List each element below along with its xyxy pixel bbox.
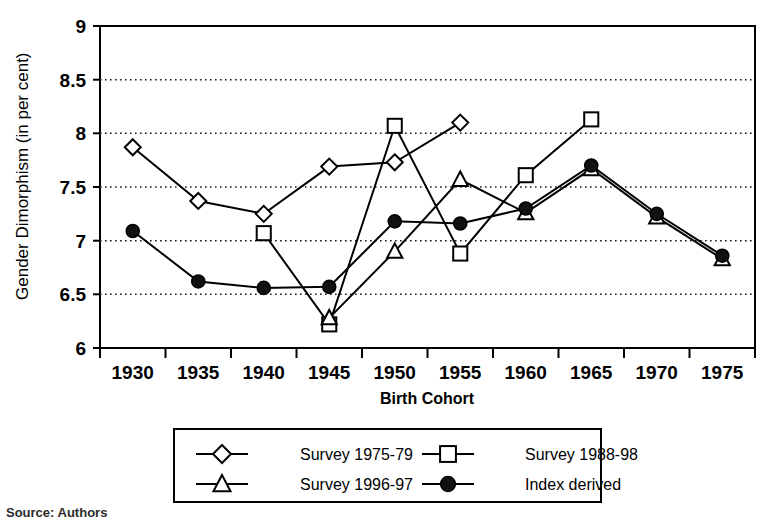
y-tick-label-7: 7	[75, 231, 86, 252]
square-open	[453, 247, 467, 261]
square-open	[440, 446, 456, 462]
marker-square-open	[584, 112, 598, 126]
x-tick-label-1975: 1975	[701, 362, 744, 383]
x-tick-label-1960: 1960	[505, 362, 547, 383]
y-tick-label-6-5: 6.5	[60, 284, 87, 305]
marker-circle-filled	[441, 477, 456, 492]
circle-filled	[585, 159, 598, 172]
x-tick-label-1930: 1930	[112, 362, 154, 383]
x-tick-label-1970: 1970	[636, 362, 678, 383]
chart-figure: Gender Dimorphism (in per cent) 9 8.5 8	[0, 0, 772, 519]
circle-filled	[388, 215, 401, 228]
square-open	[584, 112, 598, 126]
y-tick-label-6: 6	[75, 338, 86, 359]
circle-filled	[454, 217, 467, 230]
square-open	[388, 119, 402, 133]
x-tick-label-1955: 1955	[439, 362, 482, 383]
y-axis-title: Gender Dimorphism (in per cent)	[13, 52, 32, 300]
x-tick-label-1965: 1965	[570, 362, 613, 383]
circle-filled	[126, 224, 139, 237]
marker-square-open	[519, 168, 533, 182]
circle-filled	[650, 207, 663, 220]
marker-circle-filled	[388, 215, 401, 228]
marker-circle-filled	[257, 281, 270, 294]
legend-label: Survey 1975-79	[300, 446, 413, 463]
marker-circle-filled	[454, 217, 467, 230]
x-tick-label-1935: 1935	[177, 362, 220, 383]
gender-dimorphism-line-chart: Gender Dimorphism (in per cent) 9 8.5 8	[0, 0, 772, 519]
marker-square-open	[257, 226, 271, 240]
figure-caption: Source: Authors	[6, 505, 107, 519]
y-axis-title-text: Gender Dimorphism (in per cent)	[13, 52, 32, 300]
marker-circle-filled	[716, 249, 729, 262]
marker-square-open	[440, 446, 456, 462]
y-tick-label-8: 8	[75, 123, 86, 144]
marker-circle-filled	[192, 275, 205, 288]
marker-circle-filled	[585, 159, 598, 172]
square-open	[257, 226, 271, 240]
square-open	[519, 168, 533, 182]
marker-square-open	[453, 247, 467, 261]
circle-filled	[323, 280, 336, 293]
circle-filled	[192, 275, 205, 288]
circle-filled	[441, 477, 456, 492]
marker-circle-filled	[650, 207, 663, 220]
x-tick-label-1945: 1945	[308, 362, 351, 383]
marker-circle-filled	[519, 202, 532, 215]
legend-label: Index derived	[525, 476, 621, 493]
circle-filled	[716, 249, 729, 262]
circle-filled	[519, 202, 532, 215]
marker-circle-filled	[126, 224, 139, 237]
legend-label: Survey 1988-98	[525, 446, 638, 463]
y-tick-label-7-5: 7.5	[60, 177, 87, 198]
legend-label: Survey 1996-97	[300, 476, 413, 493]
legend-entry-1[interactable]: Survey 1988-98	[422, 446, 638, 463]
marker-circle-filled	[323, 280, 336, 293]
y-tick-label-9: 9	[75, 16, 86, 37]
x-tick-label-1940: 1940	[243, 362, 285, 383]
x-axis-title: Birth Cohort	[380, 390, 475, 407]
x-tick-label-1950: 1950	[374, 362, 416, 383]
circle-filled	[257, 281, 270, 294]
marker-square-open	[388, 119, 402, 133]
y-tick-label-8-5: 8.5	[60, 70, 87, 91]
